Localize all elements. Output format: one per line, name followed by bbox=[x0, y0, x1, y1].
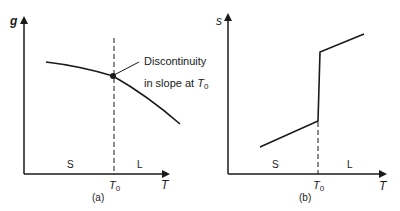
caption-a: (a) bbox=[92, 192, 104, 203]
s-curve bbox=[260, 34, 364, 147]
region-solid-label-a: S bbox=[67, 159, 74, 170]
region-liquid-label-a: L bbox=[137, 159, 143, 170]
region-solid-label-b: S bbox=[272, 159, 279, 170]
region-liquid-label-b: L bbox=[347, 159, 353, 170]
annotation-line2: in slope at T0 bbox=[144, 77, 209, 91]
y-axis-label-a: g bbox=[9, 14, 18, 28]
caption-b: (b) bbox=[299, 192, 311, 203]
diagram-canvas: g T T0 S L (a) Discontinuity in slope at… bbox=[0, 0, 400, 211]
t0-label-a: T0 bbox=[109, 179, 121, 193]
y-axis-label-b: s bbox=[216, 14, 222, 28]
annotation-leader-line bbox=[114, 62, 139, 75]
g-curve-solid bbox=[46, 62, 113, 76]
x-axis-label-b: T bbox=[379, 179, 388, 193]
panel-b: s T T0 S L (b) bbox=[216, 14, 388, 203]
x-axis-label-a: T bbox=[161, 178, 170, 192]
annotation-line1: Discontinuity bbox=[144, 55, 207, 67]
panel-a: g T T0 S L (a) Discontinuity in slope at… bbox=[9, 14, 209, 203]
t0-label-b: T0 bbox=[313, 179, 325, 193]
